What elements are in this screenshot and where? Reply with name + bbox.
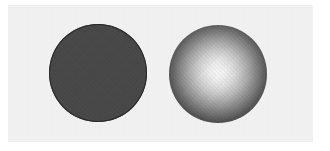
image-plate — [8, 5, 313, 142]
shaded-sphere-shape — [169, 25, 267, 123]
shape-layer — [8, 5, 313, 142]
flat-disk-shape — [49, 24, 147, 122]
figure-canvas: Flat disk and shaded sphere Flat Shaded — [0, 0, 330, 151]
